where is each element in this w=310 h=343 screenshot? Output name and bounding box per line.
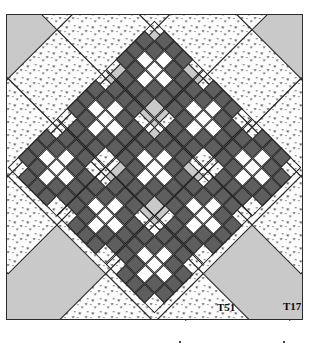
- quilt-diagram: T51 T17: [0, 0, 310, 343]
- label-t51: T51: [217, 301, 235, 313]
- quilt-frame: T51 T17: [6, 14, 303, 320]
- label-t17: T17: [283, 300, 301, 312]
- quilt-field: T51 T17: [7, 15, 302, 319]
